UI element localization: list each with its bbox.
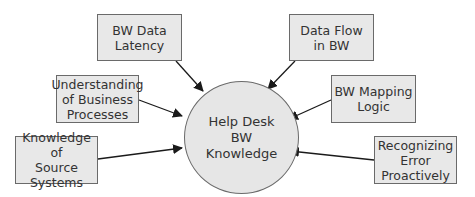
arrow-bw-data-latency: [176, 61, 203, 91]
node-line: of Business: [51, 92, 143, 107]
node-line: Knowledge of: [16, 130, 97, 160]
node-recognizing-error-proactively: Recognizing Error Proactively: [374, 136, 457, 184]
node-line: BW Data: [112, 23, 166, 38]
node-line: Data Flow: [300, 23, 362, 38]
arrow-recognizing-error-proactively: [290, 151, 374, 160]
node-line: Latency: [112, 38, 166, 53]
hub-help-desk-bw-knowledge: Help Desk BW Knowledge: [184, 81, 299, 194]
node-line: Source: [16, 160, 97, 175]
node-understanding-business-processes: Understanding of Business Processes: [56, 75, 139, 123]
arrow-bw-mapping-logic: [289, 100, 331, 119]
node-line: Recognizing: [378, 138, 454, 153]
arrow-data-flow-in-bw: [268, 61, 295, 89]
node-line: Understanding: [51, 77, 143, 92]
node-bw-mapping-logic: BW Mapping Logic: [331, 75, 416, 123]
node-line: in BW: [300, 38, 362, 53]
node-knowledge-source-systems: Knowledge of Source Systems: [15, 136, 98, 184]
hub-line-3: Knowledge: [206, 146, 277, 162]
hub-line-2: BW: [231, 130, 252, 146]
hub-line-1: Help Desk: [208, 114, 274, 130]
arrow-understanding-business-processes: [139, 100, 182, 116]
node-line: Proactively: [378, 168, 454, 183]
node-data-flow-in-bw: Data Flow in BW: [289, 14, 374, 61]
node-line: Error: [378, 153, 454, 168]
node-line: BW Mapping: [334, 84, 412, 99]
node-line: Logic: [334, 99, 412, 114]
arrow-knowledge-source-systems: [98, 148, 182, 159]
node-line: Processes: [51, 107, 143, 122]
node-line: Systems: [16, 175, 97, 190]
node-bw-data-latency: BW Data Latency: [97, 14, 182, 61]
